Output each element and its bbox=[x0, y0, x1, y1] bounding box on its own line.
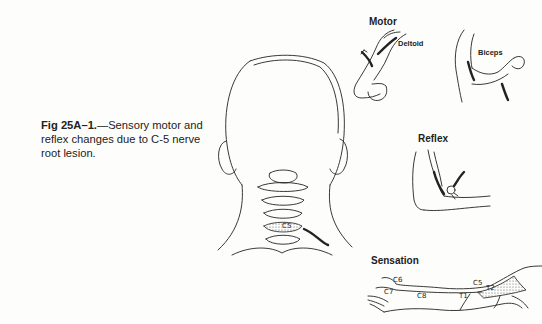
c5-vertebra-label: C5 bbox=[282, 222, 291, 230]
biceps-label: Biceps bbox=[478, 48, 503, 57]
biceps-arm-illustration bbox=[450, 24, 540, 104]
dermatome-t1: T1 bbox=[459, 292, 468, 300]
reflex-arm-illustration bbox=[410, 150, 500, 220]
deltoid-label: Deltoid bbox=[398, 39, 423, 48]
dermatome-c6: C6 bbox=[393, 276, 402, 284]
reflex-title: Reflex bbox=[418, 133, 448, 144]
dermatome-t2: T2 bbox=[486, 284, 495, 292]
figure-label: Fig 25A–1. bbox=[41, 119, 97, 131]
figure-caption: Fig 25A–1.—Sensory motor and reflex chan… bbox=[41, 118, 221, 160]
dermatome-c7: C7 bbox=[384, 288, 393, 296]
dermatome-c8: C8 bbox=[417, 292, 426, 300]
dermatome-c5: C5 bbox=[473, 279, 482, 287]
deltoid-arm-illustration bbox=[348, 26, 428, 106]
